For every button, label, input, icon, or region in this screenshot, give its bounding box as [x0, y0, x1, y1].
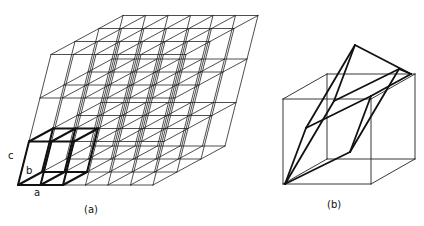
lattice-line — [201, 29, 234, 160]
lattice-line — [108, 59, 180, 98]
lattice-line — [119, 16, 191, 55]
lattice-line — [51, 16, 123, 55]
cube-edge — [283, 74, 327, 99]
lattice-line — [85, 59, 157, 98]
lattice-line — [130, 59, 202, 98]
caption-a: (a) — [84, 205, 98, 215]
lattice-line — [153, 146, 225, 185]
label-b: b — [26, 166, 32, 176]
highlighted-cell-edge — [42, 129, 53, 173]
caption-b: (b) — [327, 200, 341, 210]
lattice-line — [108, 146, 180, 185]
label-a: a — [34, 188, 40, 198]
cube-edge — [371, 159, 415, 184]
lattice-line — [141, 16, 213, 55]
rhombohedron-edge — [399, 69, 411, 74]
lattice-figure — [0, 0, 424, 226]
highlighted-cell-edge — [65, 129, 76, 173]
lattice-line — [96, 16, 168, 55]
label-c: c — [8, 151, 14, 161]
lattice-line — [63, 59, 135, 98]
lattice-line — [74, 16, 146, 55]
lattice-line — [86, 146, 158, 185]
lattice-line — [119, 103, 191, 142]
lattice-line — [164, 16, 236, 55]
lattice-line — [40, 59, 112, 98]
rhombohedron-edge — [371, 74, 411, 96]
lattice-line — [175, 59, 247, 98]
highlighted-cell-edge — [41, 142, 52, 186]
lattice-line — [164, 103, 236, 142]
lattice-line — [153, 59, 225, 98]
lattice-line — [97, 103, 169, 142]
lattice-line — [186, 16, 258, 55]
lattice-line — [142, 103, 214, 142]
lattice-line — [131, 146, 203, 185]
lattice-line — [225, 16, 258, 147]
highlighted-cell-edge — [18, 142, 29, 186]
